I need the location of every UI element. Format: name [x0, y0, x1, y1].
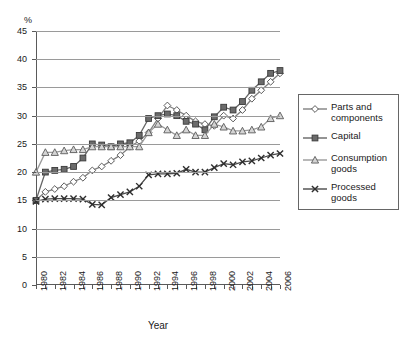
y-tick-label: 20: [5, 168, 27, 177]
x-tick-mark: [36, 285, 37, 289]
x-tick-mark: [149, 285, 150, 289]
x-tick-mark: [186, 285, 187, 289]
data-point: [136, 183, 142, 189]
y-tick-mark: [32, 144, 36, 145]
data-point: [61, 183, 68, 190]
data-point: [164, 126, 171, 133]
series-layer: [36, 31, 280, 285]
y-tick-label: 35: [5, 83, 27, 92]
x-tick-mark: [111, 285, 112, 289]
x-tick-label: 2004: [265, 271, 274, 291]
x-tick-mark: [55, 285, 56, 289]
gridline: [36, 144, 280, 145]
x-tick-mark: [130, 285, 131, 289]
x-tick-label: 1980: [40, 271, 49, 291]
y-tick-label: 30: [5, 112, 27, 121]
gridline: [36, 116, 280, 117]
x-tick-mark: [167, 285, 168, 289]
x-tick-mark: [242, 285, 243, 289]
y-tick-mark: [32, 59, 36, 60]
y-tick-label: 15: [5, 196, 27, 205]
x-tick-label: 2000: [228, 271, 237, 291]
legend-item-2[interactable]: Capital: [302, 130, 394, 145]
gridline: [36, 59, 280, 60]
y-tick-label: 45: [5, 27, 27, 36]
data-point: [70, 178, 77, 185]
x-tick-label: 1988: [115, 271, 124, 291]
x-tick-label: 1994: [171, 271, 180, 291]
y-tick-mark: [32, 229, 36, 230]
legend-item-1[interactable]: Parts and components: [302, 101, 394, 123]
x-tick-label: 1996: [190, 271, 199, 291]
series-1: [33, 70, 284, 204]
data-point: [240, 99, 246, 105]
data-point: [51, 186, 58, 193]
y-tick-mark: [32, 116, 36, 117]
chart-legend: Parts and componentsCapitalConsumption g…: [298, 94, 399, 210]
data-point: [312, 106, 319, 113]
x-tick-mark: [280, 285, 281, 289]
x-tick-label: 2006: [284, 271, 293, 291]
x-tick-mark: [261, 285, 262, 289]
gridline: [36, 172, 280, 173]
data-point: [312, 135, 318, 141]
gridline: [36, 229, 280, 230]
gridline: [36, 31, 280, 32]
y-axis-unit-label: %: [24, 16, 32, 25]
chart-container: % 051015202530354045 1980198219841986198…: [0, 0, 405, 342]
data-point: [193, 121, 199, 127]
gridline: [36, 200, 280, 201]
x-tick-label: 2002: [246, 271, 255, 291]
data-point: [258, 79, 264, 85]
data-point: [80, 155, 86, 161]
data-point: [173, 132, 180, 139]
data-point: [108, 157, 115, 164]
y-tick-label: 25: [5, 140, 27, 149]
y-tick-mark: [32, 257, 36, 258]
series-4: [33, 150, 283, 208]
y-tick-label: 0: [5, 281, 27, 290]
x-tick-mark: [92, 285, 93, 289]
x-tick-mark: [74, 285, 75, 289]
gridline: [36, 257, 280, 258]
data-point: [183, 118, 189, 124]
square-filled-icon: [302, 131, 328, 145]
data-point: [221, 104, 227, 110]
plot-area: [36, 31, 280, 285]
x-tick-mark: [224, 285, 225, 289]
legend-item-label: Capital: [331, 130, 361, 141]
y-tick-mark: [32, 200, 36, 201]
data-point: [98, 163, 105, 170]
data-point: [268, 70, 274, 76]
legend-item-label: Parts and components: [331, 101, 394, 123]
cross-x-icon: [302, 182, 328, 196]
x-axis-title: Year: [36, 320, 280, 331]
legend-item-label: Processed goods: [331, 181, 394, 203]
y-tick-mark: [32, 87, 36, 88]
data-point: [136, 133, 142, 139]
x-tick-label: 1984: [78, 271, 87, 291]
x-tick-label: 1986: [96, 271, 105, 291]
x-tick-label: 1982: [59, 271, 68, 291]
y-tick-mark: [32, 31, 36, 32]
data-point: [211, 164, 217, 170]
legend-item-label: Consumption goods: [331, 152, 394, 174]
x-tick-label: 1990: [134, 271, 143, 291]
legend-item-4[interactable]: Processed goods: [302, 181, 394, 203]
x-tick-mark: [205, 285, 206, 289]
y-tick-label: 40: [5, 55, 27, 64]
y-tick-label: 5: [5, 253, 27, 262]
triangle-open-icon: [302, 153, 328, 167]
data-point: [230, 107, 236, 113]
data-point: [71, 164, 77, 170]
data-point: [277, 68, 283, 74]
data-point: [183, 126, 190, 133]
y-tick-mark: [32, 172, 36, 173]
y-tick-label: 10: [5, 225, 27, 234]
legend-item-3[interactable]: Consumption goods: [302, 152, 394, 174]
gridline: [36, 87, 280, 88]
x-tick-label: 1992: [153, 271, 162, 291]
x-tick-label: 1998: [209, 271, 218, 291]
diamond-open-icon: [302, 102, 328, 116]
